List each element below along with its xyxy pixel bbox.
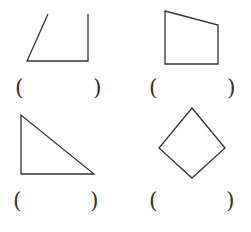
answer-b-close-paren: ) bbox=[227, 77, 236, 99]
figures-canvas bbox=[0, 0, 251, 232]
figure-d-rotated-square bbox=[159, 108, 225, 178]
answer-c-open-paren: ( bbox=[13, 190, 22, 212]
answer-a-open-paren: ( bbox=[15, 77, 24, 99]
figure-a-open-shape bbox=[27, 14, 88, 61]
answer-c-close-paren: ) bbox=[90, 190, 99, 212]
figure-c-right-triangle bbox=[21, 115, 94, 174]
figure-b-trapezoid bbox=[165, 11, 218, 64]
answer-d-close-paren: ) bbox=[226, 190, 235, 212]
answer-b-open-paren: ( bbox=[149, 77, 158, 99]
answer-d-open-paren: ( bbox=[149, 190, 158, 212]
answer-a-close-paren: ) bbox=[93, 77, 102, 99]
